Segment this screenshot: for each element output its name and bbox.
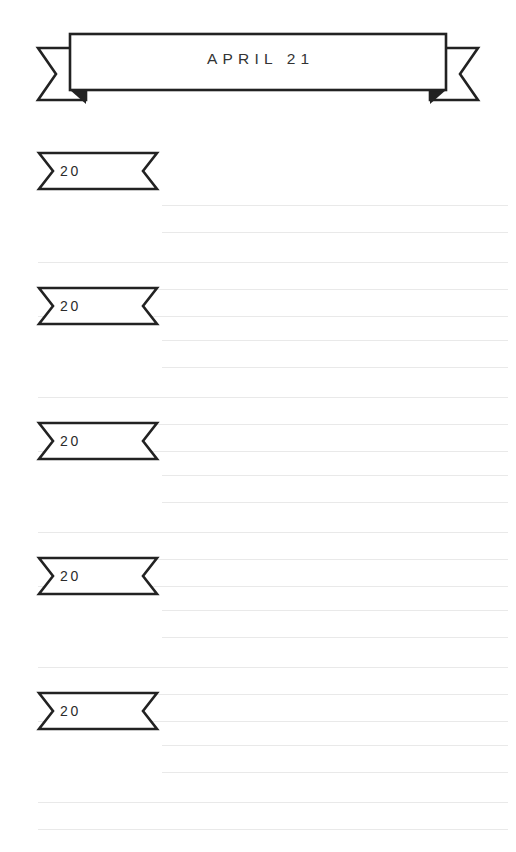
notched-tag-icon (36, 555, 160, 597)
year-tag[interactable]: 20 (36, 690, 160, 732)
writing-rule-line (162, 772, 508, 773)
notched-tag-icon (36, 150, 160, 192)
year-tag[interactable]: 20 (36, 555, 160, 597)
writing-rule-line (162, 205, 508, 206)
writing-rule-line (162, 232, 508, 233)
header-ribbon-banner: APRIL 21 (30, 28, 486, 104)
writing-rule-line (38, 802, 508, 803)
writing-rule-line (38, 262, 508, 263)
notched-tag-icon (36, 285, 160, 327)
writing-rule-line (162, 475, 508, 476)
writing-rule-line (162, 745, 508, 746)
journal-entry-block: 20 (0, 420, 516, 555)
year-tag[interactable]: 20 (36, 420, 160, 462)
notched-tag-icon (36, 420, 160, 462)
year-tag[interactable]: 20 (36, 285, 160, 327)
writing-rule-line (162, 637, 508, 638)
year-tag[interactable]: 20 (36, 150, 160, 192)
journal-page: APRIL 21 2020202020 (0, 0, 516, 852)
writing-rule-line (162, 502, 508, 503)
writing-rule-line (162, 367, 508, 368)
journal-entry-block: 20 (0, 690, 516, 825)
writing-rule-line (38, 829, 508, 830)
writing-rule-line (38, 532, 508, 533)
writing-rule-line (162, 610, 508, 611)
writing-rule-line (162, 340, 508, 341)
ribbon-banner-icon (30, 28, 486, 104)
journal-entry-block: 20 (0, 555, 516, 690)
journal-entry-block: 20 (0, 285, 516, 420)
writing-rule-line (38, 397, 508, 398)
writing-rule-line (38, 667, 508, 668)
notched-tag-icon (36, 690, 160, 732)
journal-entry-block: 20 (0, 150, 516, 285)
